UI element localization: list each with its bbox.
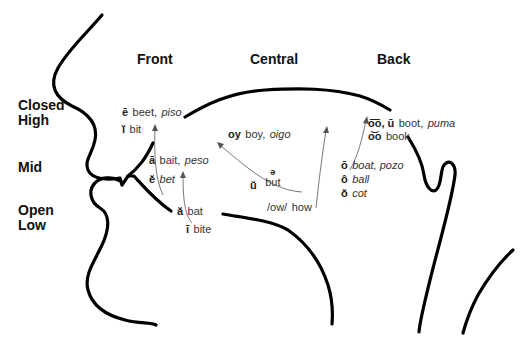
vowel-symbol: oy: [228, 128, 241, 140]
vowel-cot: ŏ cot: [341, 184, 367, 200]
vowel-english-word: but: [265, 177, 280, 188]
vowel-symbol: ē: [122, 106, 128, 118]
column-header-central: Central: [250, 52, 298, 66]
row-label-closed: Closed: [18, 98, 65, 113]
vowel-spanish-word: peso: [185, 154, 209, 166]
vowel-bite: ī bite: [186, 220, 211, 236]
vowel-english-word: book: [386, 130, 410, 142]
larynx-curve: [463, 250, 513, 333]
vowel-bait: ā bait, peso: [149, 151, 209, 167]
vowel-english-word: boy,: [245, 128, 265, 140]
vowel-beet: ē beet, piso: [122, 103, 182, 119]
vowel-symbol: ĭ: [122, 123, 125, 135]
row-label-closed-high: Closed High: [18, 98, 65, 128]
vowel-symbol: o͝o: [368, 130, 381, 142]
column-header-front: Front: [137, 52, 173, 66]
vowel-symbol: /ow/: [267, 201, 287, 213]
vowel-spanish-word: oigo: [270, 128, 291, 140]
row-label-high: High: [18, 113, 65, 128]
vowel-symbol: ŏ: [341, 187, 348, 199]
vowel-symbol: ī: [186, 223, 189, 235]
column-header-back: Back: [377, 52, 410, 66]
vowel-english-word: beet,: [133, 106, 157, 118]
vowel-book: o͝o book: [368, 127, 410, 143]
vowel-bit: ĭ bit: [122, 120, 141, 136]
vowel-spanish-word: cot: [352, 187, 367, 199]
palate-curve: [185, 89, 390, 117]
arrow-head-bite: [180, 171, 186, 178]
pharynx-curve: [408, 137, 455, 332]
vowel-spanish-word: bet: [160, 173, 175, 185]
vowel-bat: ă bat: [177, 202, 203, 218]
tongue-curve: [223, 214, 332, 324]
vowel-bet: ĕ bet: [149, 170, 175, 186]
arrow-head-how: [323, 126, 329, 133]
vowel-english-word: how: [292, 201, 312, 213]
vowel-symbol: ā: [149, 154, 155, 166]
row-label-mid: Mid: [18, 160, 42, 175]
vowel-boy: oy boy, oigo: [228, 125, 291, 141]
vowel-english-word: bit: [130, 123, 142, 135]
row-label-open: Open: [18, 203, 54, 218]
vowel-but: ŭ ə but: [250, 168, 280, 188]
vowel-spanish-word: piso: [162, 106, 182, 118]
arrow-how: [316, 130, 326, 208]
upper-profile-curve: [54, 15, 153, 185]
vowel-english-word: bait,: [160, 154, 181, 166]
vowel-symbol: ŭ: [250, 179, 257, 191]
lower-profile-curve: [87, 178, 156, 325]
row-label-open-low: Open Low: [18, 203, 54, 233]
vowel-how: /ow/ how: [267, 198, 312, 214]
vowel-english-word: bat: [188, 205, 203, 217]
vowel-english-word: bite: [194, 223, 212, 235]
vowel-symbol: ĕ: [149, 173, 155, 185]
arrow-head-bait: [152, 124, 158, 131]
vowel-spanish-word: puma: [428, 117, 456, 129]
vowel-symbol: ă: [177, 205, 183, 217]
row-label-low: Low: [18, 218, 54, 233]
